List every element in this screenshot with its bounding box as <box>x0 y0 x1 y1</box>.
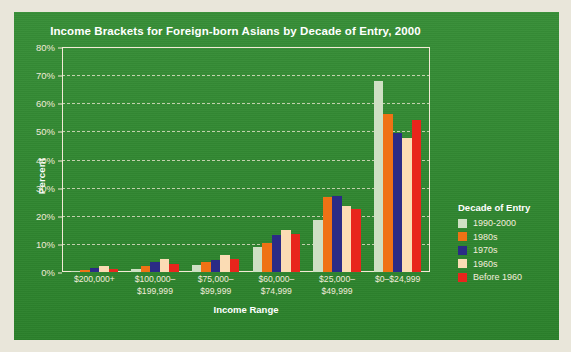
x-tick-label: $60,000– $74,999 <box>246 274 307 297</box>
bar <box>109 269 119 272</box>
legend-swatch-icon <box>458 232 467 241</box>
y-tick-label: 80% <box>36 42 55 53</box>
bar <box>90 268 100 272</box>
bar <box>412 120 422 272</box>
bar <box>291 234 301 272</box>
bar <box>342 206 352 272</box>
legend-item: 1970s <box>458 245 568 255</box>
bar <box>313 220 323 272</box>
bar <box>169 264 179 272</box>
y-tick-label: 0% <box>41 267 55 278</box>
x-tick-label: $200,000+ <box>64 274 125 297</box>
y-tick-label: 70% <box>36 70 55 81</box>
bar <box>272 235 282 272</box>
x-tick-label: $100,000– $199,999 <box>125 274 186 297</box>
chart-screenshot: Income Brackets for Foreign-born Asians … <box>0 0 571 352</box>
legend-swatch-icon <box>458 246 467 255</box>
legend-items: 1990-20001980s1970s1960sBefore 1960 <box>458 218 568 282</box>
bar <box>374 81 384 272</box>
bar <box>160 259 170 272</box>
bar <box>71 271 81 272</box>
y-tick-label: 10% <box>36 238 55 249</box>
chart-panel: Income Brackets for Foreign-born Asians … <box>14 12 559 340</box>
legend-label: 1960s <box>473 259 498 269</box>
legend-swatch-icon <box>458 219 467 228</box>
legend-item: 1980s <box>458 232 568 242</box>
bar <box>281 230 291 272</box>
bar <box>150 262 160 272</box>
x-tick-label: $75,000– $99,999 <box>185 274 246 297</box>
chart-title: Income Brackets for Foreign-born Asians … <box>14 25 559 37</box>
legend-swatch-icon <box>458 259 467 268</box>
bar-group <box>367 47 428 272</box>
bar-group <box>246 47 307 272</box>
bar <box>192 265 202 272</box>
y-tick-label: 20% <box>36 210 55 221</box>
bar <box>80 270 90 272</box>
bar-group <box>125 47 186 272</box>
bar <box>99 266 109 272</box>
legend-title: Decade of Entry <box>458 202 568 213</box>
x-axis-label: Income Range <box>62 304 430 315</box>
legend-label: 1980s <box>473 232 498 242</box>
bar <box>201 262 211 272</box>
bar <box>220 255 230 272</box>
bar <box>253 247 263 272</box>
x-tick-labels: $200,000+$100,000– $199,999$75,000– $99,… <box>62 274 430 297</box>
plot-wrap: 0%10%20%30%40%50%60%70%80% <box>62 47 430 272</box>
bar <box>402 138 412 272</box>
y-tick-label: 60% <box>36 98 55 109</box>
legend-label: Before 1960 <box>473 272 522 282</box>
bar-group <box>185 47 246 272</box>
bar-group <box>307 47 368 272</box>
bar <box>383 114 393 272</box>
y-tick-label: 40% <box>36 154 55 165</box>
gridline <box>62 272 430 273</box>
bar <box>230 259 240 272</box>
legend-label: 1990-2000 <box>473 218 516 228</box>
legend: Decade of Entry 1990-20001980s1970s1960s… <box>458 202 568 286</box>
legend-label: 1970s <box>473 245 498 255</box>
bar <box>211 260 221 272</box>
bar <box>131 269 141 272</box>
bar <box>393 133 403 272</box>
legend-item: 1960s <box>458 259 568 269</box>
y-tick-label: 30% <box>36 182 55 193</box>
bar-group <box>64 47 125 272</box>
bar-groups <box>62 47 430 272</box>
bar <box>332 196 342 273</box>
bar <box>262 243 272 272</box>
x-tick-label: $25,000– $49,999 <box>307 274 368 297</box>
y-tick-label: 50% <box>36 126 55 137</box>
bar <box>141 266 151 272</box>
x-tick-label: $0–$24,999 <box>367 274 428 297</box>
legend-item: 1990-2000 <box>458 218 568 228</box>
bar <box>323 197 333 272</box>
bar <box>351 209 361 272</box>
legend-swatch-icon <box>458 273 467 282</box>
legend-item: Before 1960 <box>458 272 568 282</box>
